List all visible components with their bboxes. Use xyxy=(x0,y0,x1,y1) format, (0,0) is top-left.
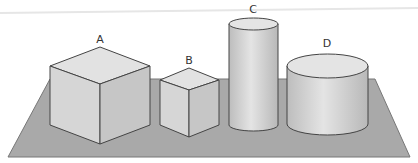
top-rule xyxy=(0,8,418,13)
cube-b: B xyxy=(160,54,219,137)
cube-a: A xyxy=(50,33,150,144)
label-a: A xyxy=(96,33,104,46)
cylinder-d: D xyxy=(287,37,368,135)
label-d: D xyxy=(323,37,331,50)
label-b: B xyxy=(185,54,193,67)
cylinder-c: C xyxy=(229,3,278,131)
label-c: C xyxy=(249,3,257,16)
diagram-canvas: A B C D xyxy=(0,0,418,163)
